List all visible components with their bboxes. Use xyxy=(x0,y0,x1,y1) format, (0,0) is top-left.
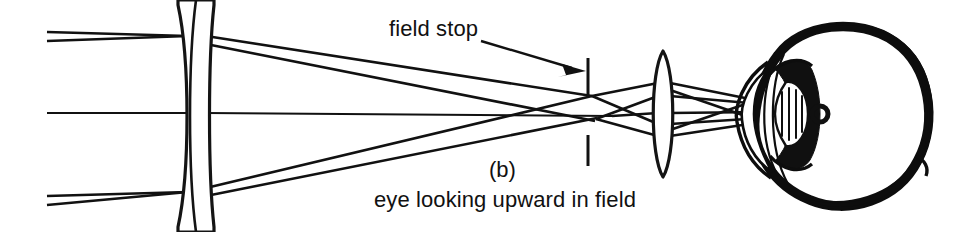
ray-upper-c xyxy=(206,36,592,96)
eye-crystalline-lens xyxy=(775,82,808,146)
objective-lens-body xyxy=(178,0,214,232)
ray-post-a xyxy=(592,83,658,96)
field-stop-label: field stop xyxy=(389,18,478,40)
ray-post-d xyxy=(596,119,658,136)
ray-lower-d xyxy=(206,118,597,196)
ray-upper-b xyxy=(47,36,188,41)
leader-line xyxy=(481,41,572,68)
figure-caption: eye looking upward in field xyxy=(374,189,636,211)
ray-bundle-after-stop xyxy=(592,83,658,136)
eyepiece-lens xyxy=(653,51,673,177)
ray-upper-a xyxy=(47,32,188,36)
eyepiece-lens-body xyxy=(653,51,673,177)
human-eye xyxy=(736,24,932,208)
ray-bundle-upper-left xyxy=(47,32,188,41)
part-label: (b) xyxy=(489,159,516,181)
field-stop-annotation-leader xyxy=(481,41,586,77)
ray-post-axis xyxy=(612,113,658,116)
optical-ray-diagram-figure: field stop (b) eye looking upward in fie… xyxy=(0,0,957,232)
ray-bundle-lower-left xyxy=(47,192,188,205)
objective-doublet-lens xyxy=(178,0,214,232)
ray-lower-c xyxy=(206,96,592,188)
